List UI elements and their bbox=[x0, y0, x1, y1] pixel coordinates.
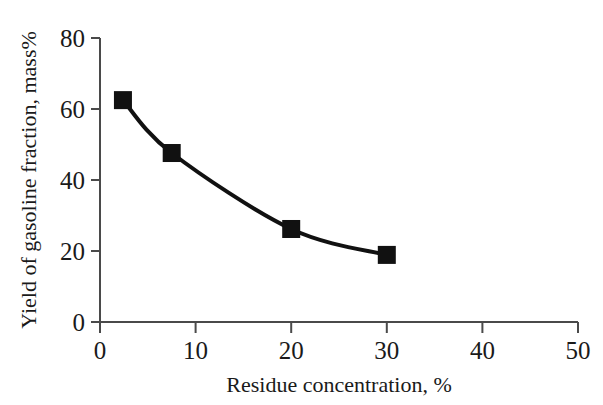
x-tick-label: 30 bbox=[374, 337, 399, 364]
x-tick-label: 0 bbox=[94, 337, 107, 364]
chart-canvas: 020406080 01020304050 Residue concentrat… bbox=[0, 0, 603, 405]
chart-figure: 020406080 01020304050 Residue concentrat… bbox=[0, 0, 603, 405]
y-tick-label: 80 bbox=[60, 25, 85, 52]
x-tick-label: 10 bbox=[183, 337, 208, 364]
x-axis-title: Residue concentration, % bbox=[226, 372, 451, 397]
x-tick-label: 40 bbox=[470, 337, 495, 364]
data-point-marker bbox=[378, 246, 396, 264]
y-tick-label: 20 bbox=[60, 238, 85, 265]
y-axis-title: Yield of gasoline fraction, mass% bbox=[16, 31, 41, 329]
data-point-marker bbox=[282, 220, 300, 238]
y-tick-label: 40 bbox=[60, 167, 85, 194]
data-point-marker bbox=[114, 91, 132, 109]
x-tick-label: 50 bbox=[566, 337, 591, 364]
y-tick-label: 60 bbox=[60, 96, 85, 123]
x-tick-label: 20 bbox=[279, 337, 304, 364]
y-tick-label: 0 bbox=[73, 309, 86, 336]
data-point-marker bbox=[163, 144, 181, 162]
